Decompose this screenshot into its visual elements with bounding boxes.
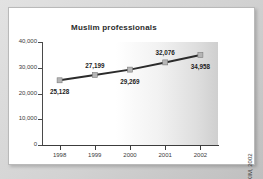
data-point-label: 29,269 bbox=[120, 78, 139, 85]
source-note-holder: Source: IKIM, 2002 bbox=[240, 48, 250, 148]
source-note: Source: IKIM, 2002 bbox=[247, 153, 253, 179]
data-point-label: 25,128 bbox=[50, 88, 69, 95]
data-point-label: 27,199 bbox=[85, 62, 104, 69]
series-svg bbox=[9, 8, 256, 166]
data-point-label: 34,958 bbox=[191, 63, 210, 70]
plot-wrapper: 40,00030,00020,00010,0000 19981999200020… bbox=[9, 8, 256, 166]
screenshot-root: Muslim professionals 40,00030,00020,0001… bbox=[0, 0, 263, 179]
series-marker bbox=[198, 52, 203, 57]
chart-card: Muslim professionals 40,00030,00020,0001… bbox=[8, 7, 255, 165]
series-marker bbox=[163, 60, 168, 65]
data-point-label: 32,076 bbox=[156, 49, 175, 56]
series-marker bbox=[57, 78, 62, 83]
series-marker bbox=[128, 67, 133, 72]
series-marker bbox=[92, 72, 97, 77]
